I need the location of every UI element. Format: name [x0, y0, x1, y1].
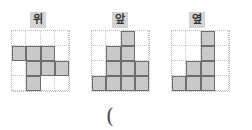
filled-cell [12, 46, 26, 61]
empty-cell [106, 31, 120, 46]
filled-cell [201, 46, 215, 61]
front-view-grid [91, 30, 150, 92]
filled-cell [106, 61, 120, 76]
empty-cell [215, 46, 229, 61]
filled-cell [55, 61, 69, 76]
empty-cell [186, 46, 200, 61]
filled-cell [41, 61, 55, 76]
filled-cell [26, 61, 40, 76]
filled-cell [172, 76, 186, 91]
empty-cell [135, 46, 149, 61]
empty-cell [172, 46, 186, 61]
front-view-label: 앞 [112, 12, 128, 28]
empty-cell [12, 61, 26, 76]
filled-cell [201, 61, 215, 76]
filled-cell [121, 31, 135, 46]
empty-cell [172, 61, 186, 76]
empty-cell [55, 31, 69, 46]
filled-cell [26, 46, 40, 61]
filled-cell [201, 76, 215, 91]
empty-cell [186, 31, 200, 46]
filled-cell [92, 76, 106, 91]
side-view: 옆 [160, 0, 240, 100]
filled-cell [135, 76, 149, 91]
filled-cell [201, 31, 215, 46]
filled-cell [41, 46, 55, 61]
empty-cell [92, 61, 106, 76]
empty-cell [12, 31, 26, 46]
empty-cell [215, 76, 229, 91]
front-view: 앞 [80, 0, 160, 100]
empty-cell [215, 61, 229, 76]
answer-paren: ( [106, 104, 114, 128]
empty-cell [92, 46, 106, 61]
filled-cell [121, 61, 135, 76]
filled-cell [26, 76, 40, 91]
filled-cell [106, 76, 120, 91]
empty-cell [41, 76, 55, 91]
empty-cell [215, 31, 229, 46]
empty-cell [41, 31, 55, 46]
filled-cell [186, 76, 200, 91]
side-view-grid [171, 30, 230, 92]
empty-cell [172, 31, 186, 46]
empty-cell [26, 31, 40, 46]
empty-cell [92, 31, 106, 46]
empty-cell [55, 76, 69, 91]
empty-cell [55, 46, 69, 61]
empty-cell [12, 76, 26, 91]
side-view-label: 옆 [189, 12, 205, 28]
top-view-label: 위 [30, 12, 46, 28]
filled-cell [121, 46, 135, 61]
filled-cell [121, 76, 135, 91]
filled-cell [106, 46, 120, 61]
empty-cell [135, 31, 149, 46]
top-view: 위 [0, 0, 80, 100]
top-view-grid [11, 30, 70, 92]
filled-cell [186, 61, 200, 76]
filled-cell [135, 61, 149, 76]
